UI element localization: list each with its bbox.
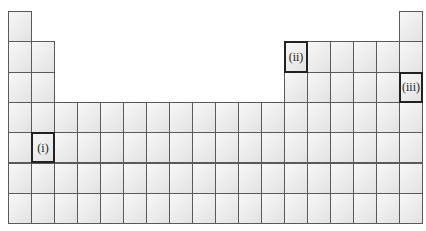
element-cell: [31, 102, 55, 133]
element-cell: [307, 193, 331, 224]
element-cell: [146, 132, 170, 163]
element-cell: [353, 72, 377, 103]
element-cell: [307, 102, 331, 133]
element-cell: [77, 102, 101, 133]
element-cell: [54, 163, 78, 194]
element-cell: [376, 193, 400, 224]
element-cell: [54, 132, 78, 163]
element-cell: [330, 41, 354, 72]
element-cell: [307, 163, 331, 194]
element-cell: [307, 72, 331, 103]
element-cell: [8, 193, 32, 224]
element-cell: [307, 41, 331, 72]
element-cell: [399, 11, 423, 42]
element-cell: [100, 102, 124, 133]
element-cell: [8, 132, 32, 163]
element-cell: [8, 102, 32, 133]
element-cell: [376, 163, 400, 194]
element-cell: [238, 193, 262, 224]
element-cell: [169, 102, 193, 133]
element-cell: [215, 163, 239, 194]
element-cell: [123, 193, 147, 224]
element-cell: [31, 41, 55, 72]
element-cell: [192, 132, 216, 163]
element-cell: [261, 102, 285, 133]
element-cell: [330, 132, 354, 163]
element-cell: [399, 41, 423, 72]
element-cell: [284, 193, 308, 224]
element-cell: [31, 72, 55, 103]
element-cell: [192, 102, 216, 133]
element-cell: [238, 163, 262, 194]
element-cell: [261, 132, 285, 163]
marked-element-cell: (ii): [284, 41, 308, 72]
element-cell: [146, 102, 170, 133]
element-cell: [8, 41, 32, 72]
element-cell: [261, 163, 285, 194]
element-cell: [353, 193, 377, 224]
element-cell: [284, 132, 308, 163]
element-cell: [376, 102, 400, 133]
marked-element-cell: (iii): [399, 72, 423, 103]
cell-label: (iii): [401, 80, 421, 95]
periodic-table-outline: (ii)(iii)(i): [0, 0, 426, 231]
element-cell: [123, 102, 147, 133]
element-cell: [169, 163, 193, 194]
element-cell: [284, 163, 308, 194]
element-cell: [376, 132, 400, 163]
element-cell: [100, 193, 124, 224]
element-cell: [8, 163, 32, 194]
element-cell: [376, 72, 400, 103]
element-cell: [123, 132, 147, 163]
element-cell: [238, 102, 262, 133]
element-cell: [376, 41, 400, 72]
element-cell: [146, 193, 170, 224]
element-cell: [192, 193, 216, 224]
element-cell: [100, 132, 124, 163]
element-cell: [100, 163, 124, 194]
marked-element-cell: (i): [31, 132, 55, 163]
element-cell: [330, 102, 354, 133]
element-cell: [77, 163, 101, 194]
element-cell: [169, 132, 193, 163]
element-cell: [399, 102, 423, 133]
element-cell: [54, 193, 78, 224]
element-cell: [284, 72, 308, 103]
element-cell: [284, 102, 308, 133]
element-cell: [31, 193, 55, 224]
element-cell: [146, 163, 170, 194]
element-cell: [77, 193, 101, 224]
element-cell: [215, 193, 239, 224]
element-cell: [399, 163, 423, 194]
element-cell: [261, 193, 285, 224]
element-cell: [215, 102, 239, 133]
element-cell: [353, 41, 377, 72]
element-cell: [31, 163, 55, 194]
cell-label: (ii): [286, 49, 306, 64]
element-cell: [54, 102, 78, 133]
element-cell: [215, 132, 239, 163]
element-cell: [307, 132, 331, 163]
element-cell: [238, 132, 262, 163]
cell-label: (i): [33, 140, 53, 155]
element-cell: [330, 163, 354, 194]
element-cell: [123, 163, 147, 194]
element-cell: [192, 163, 216, 194]
element-cell: [353, 163, 377, 194]
element-cell: [8, 72, 32, 103]
element-cell: [353, 102, 377, 133]
element-cell: [399, 193, 423, 224]
element-cell: [353, 132, 377, 163]
element-cell: [330, 72, 354, 103]
element-cell: [169, 193, 193, 224]
element-cell: [330, 193, 354, 224]
element-cell: [8, 11, 32, 42]
element-cell: [77, 132, 101, 163]
element-cell: [399, 132, 423, 163]
